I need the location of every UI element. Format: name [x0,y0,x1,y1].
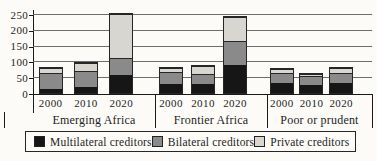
bar-segment-bilateral [110,58,132,74]
year-label: 2000 [155,96,187,112]
y-tick-mark-150 [29,47,33,48]
y-tick-label-50: 50 [0,72,28,85]
bar-segment-private [75,63,97,71]
bar-segment-multilateral [192,84,214,93]
year-label: 2000 [34,96,68,112]
x-axis-baseline [33,94,372,95]
legend-label-1: Multilateral creditors [50,136,152,148]
category-separator-1 [155,94,156,128]
category-separator-3 [372,94,373,128]
bar-segment-multilateral [330,83,352,93]
bar-segment-bilateral [300,76,322,84]
year-label: 2020 [219,96,251,112]
y-tick-mark-200 [29,31,33,32]
legend-swatch-2 [152,136,163,147]
y-tick-mark-100 [29,62,33,63]
y-tick-label-150: 150 [0,40,28,53]
year-label-group-1: 200020102020 [33,96,155,112]
year-label: 2020 [326,96,356,112]
bar-segment-bilateral [224,41,246,65]
stacked-bar-emerging-africa-2000 [39,67,63,94]
bar-segment-bilateral [330,73,352,83]
bar-segment-bilateral [40,73,62,89]
legend-label-3: Private creditors [270,136,349,148]
bar-segment-multilateral [224,65,246,93]
year-label: 2010 [187,96,219,112]
year-label: 2020 [104,96,138,112]
category-separator-5 [4,112,5,128]
group-label-1: Emerging Africa [33,112,155,128]
stacked-bar-poor-or-prudent-africa-2020 [329,67,353,94]
year-label: 2010 [297,96,327,112]
bar-segment-multilateral [75,87,97,93]
y-tick-label-0: 0 [0,88,28,101]
stacked-bar-poor-or-prudent-africa-2010 [299,73,323,94]
group-label-2: Frontier Africa [155,112,267,128]
stacked-bar-frontier-africa-2010 [191,65,215,94]
legend-item-3: Private creditors [254,136,349,148]
year-label: 2010 [69,96,103,112]
bar-segment-bilateral [192,74,214,84]
group-labels-row: Emerging AfricaFrontier AfricaPoor or pr… [33,112,372,128]
bar-group-1 [33,13,155,94]
year-label: 2000 [267,96,297,112]
legend-swatch-1 [34,136,45,147]
group-label-3: Poor or prudent Africa [267,112,372,128]
y-tick-label-100: 100 [0,56,28,69]
bar-segment-bilateral [160,72,182,85]
year-label-group-2: 200020102020 [155,96,267,112]
year-label-group-3: 200020102020 [267,96,372,112]
bar-groups [33,15,372,94]
y-tick-mark-250 [29,15,33,16]
category-separator-4 [33,94,34,113]
y-tick-mark-50 [29,78,33,79]
bar-segment-bilateral [271,73,293,83]
legend-item-1: Multilateral creditors [34,136,152,148]
legend-swatch-3 [254,136,265,147]
bar-segment-multilateral [110,75,132,93]
legend-item-2: Bilateral creditors [152,136,255,148]
bar-segment-multilateral [300,85,322,93]
stacked-bar-chart-figure: 050100150200250 200020102020200020102020… [0,0,377,161]
legend: Multilateral creditorsBilateral creditor… [25,131,356,152]
bar-segment-private [110,14,132,58]
year-labels-row: 200020102020200020102020200020102020 [33,96,372,112]
plot-area [33,15,372,94]
stacked-bar-frontier-africa-2020 [223,16,247,94]
bar-segment-multilateral [160,84,182,93]
bar-segment-private [192,66,214,74]
y-tick-label-250: 250 [0,9,28,22]
stacked-bar-poor-or-prudent-africa-2000 [270,68,294,94]
bar-segment-multilateral [40,89,62,93]
bar-group-3 [267,67,372,94]
category-separator-2 [267,94,268,128]
bar-segment-bilateral [75,71,97,87]
bar-group-2 [155,16,267,94]
stacked-bar-emerging-africa-2010 [74,62,98,94]
legend-label-2: Bilateral creditors [168,136,255,148]
stacked-bar-frontier-africa-2000 [159,67,183,94]
bar-segment-private [224,17,246,41]
y-tick-label-200: 200 [0,24,28,37]
stacked-bar-emerging-africa-2020 [109,13,133,94]
bar-segment-multilateral [271,83,293,93]
